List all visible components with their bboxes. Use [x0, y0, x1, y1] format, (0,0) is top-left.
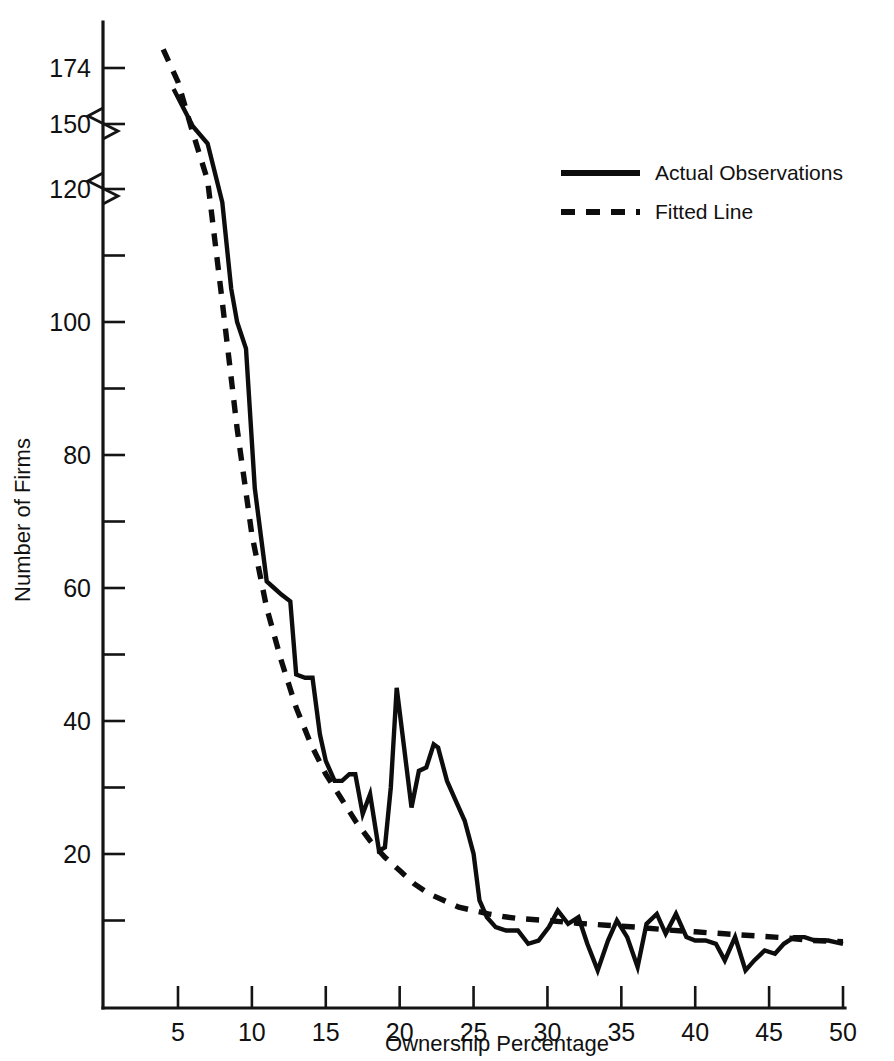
y-tick-label: 150 [49, 110, 91, 138]
y-tick-label-group: 20406080100120150174 [49, 54, 91, 868]
x-tick-label: 10 [238, 1018, 266, 1046]
chart-container: 20406080100120150174 Number of Firms 510… [0, 0, 894, 1061]
y-tick-label: 60 [63, 574, 91, 602]
y-tick-group [103, 68, 125, 854]
legend-label-actual: Actual Observations [655, 161, 843, 184]
y-axis-group: 20406080100120150174 Number of Firms [10, 22, 125, 1008]
x-axis-title: Ownership Percentage [385, 1031, 609, 1056]
legend: Actual Observations Fitted Line [561, 161, 843, 223]
y-tick-label: 174 [49, 54, 91, 82]
y-tick-label: 100 [49, 308, 91, 336]
x-tick-label: 45 [755, 1018, 783, 1046]
legend-label-fitted: Fitted Line [655, 200, 753, 223]
x-tick-label: 35 [607, 1018, 635, 1046]
y-tick-label: 80 [63, 441, 91, 469]
x-tick-group [178, 986, 843, 1008]
y-tick-label: 40 [63, 707, 91, 735]
x-tick-label: 40 [681, 1018, 709, 1046]
y-axis-title: Number of Firms [10, 438, 35, 602]
x-tick-label: 5 [171, 1018, 185, 1046]
x-axis-group: 5101520253035404550 Ownership Percentage [103, 986, 857, 1056]
plot-series-group [163, 49, 843, 970]
y-tick-label: 20 [63, 840, 91, 868]
x-tick-label: 50 [829, 1018, 857, 1046]
x-tick-label: 15 [312, 1018, 340, 1046]
line-chart-figure: 20406080100120150174 Number of Firms 510… [0, 0, 894, 1061]
y-tick-label: 120 [49, 175, 91, 203]
